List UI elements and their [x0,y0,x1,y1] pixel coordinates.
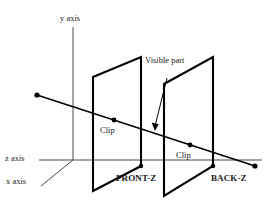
clip-label-front: Clip [100,126,115,135]
ray-line [37,95,255,166]
back-plane-outline [164,57,213,196]
clip-point-back [188,143,193,148]
x-axis-label: x axis [6,177,26,186]
ray-group [34,92,257,168]
clipping-diagram: y axis z axis x axis Visible part Clip C… [0,0,276,215]
front-z-label: FRONT-Z [116,174,156,183]
visible-part-label: Visible part [145,56,184,65]
front-clipping-plane [93,57,141,191]
back-z-label: BACK-Z [211,174,247,183]
z-axis-label: z axis [5,154,25,163]
visible-part-arrow-head [152,123,159,131]
ray-start-point [34,92,39,97]
back-plane-base-point [211,164,215,168]
back-clipping-plane [164,57,213,196]
y-axis-label: y axis [60,14,80,23]
front-plane-base-point [139,164,143,168]
front-plane-outline [93,57,141,191]
plane-axis-intersections [139,164,215,168]
clip-point-front [112,118,117,123]
x-axis-line [41,160,73,186]
visible-part-arrow-shaft [155,78,167,126]
clip-label-back: Clip [176,151,191,160]
ray-end-point [252,163,257,168]
